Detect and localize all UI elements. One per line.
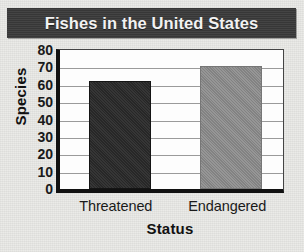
chart-title-bar: Fishes in the United States xyxy=(7,8,296,38)
y-axis-tick-label: 20 xyxy=(23,147,53,161)
y-axis-tick-label: 0 xyxy=(23,182,53,196)
x-axis-tick-label: Threatened xyxy=(56,198,176,214)
x-axis-title: Status xyxy=(56,220,284,237)
bar-endangered xyxy=(200,66,262,189)
plot-area xyxy=(60,50,283,189)
chart-page: Fishes in the United States 010203040506… xyxy=(0,0,304,252)
y-axis-tick-label: 10 xyxy=(23,165,53,179)
bar-threatened xyxy=(89,81,151,189)
y-axis-tick-label: 80 xyxy=(23,43,53,57)
y-axis-title: Species xyxy=(12,57,29,137)
x-axis-tick-label: Endangered xyxy=(167,198,287,214)
plot-frame xyxy=(56,49,284,193)
chart-title: Fishes in the United States xyxy=(7,8,296,38)
